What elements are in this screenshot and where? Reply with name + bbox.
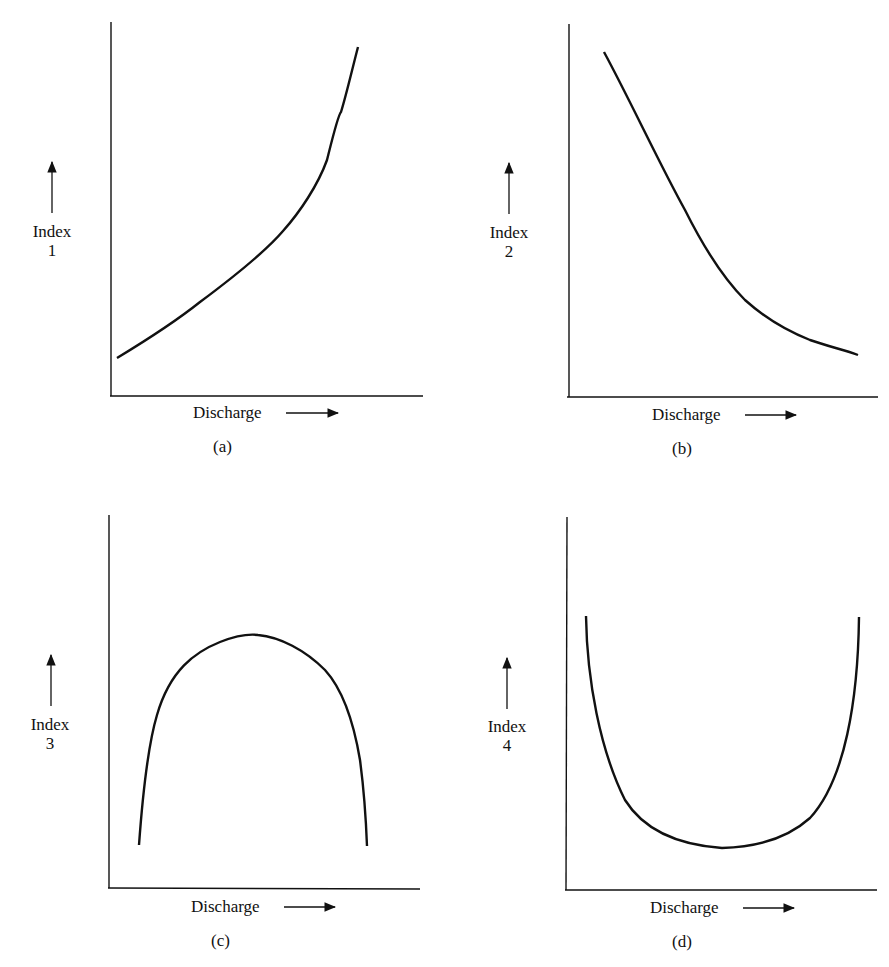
y-label-text: Index <box>479 223 539 242</box>
panel-c <box>51 515 420 907</box>
curve-index-1 <box>117 47 358 358</box>
y-axis-label-a: Index 1 <box>22 222 82 260</box>
y-label-text: Index <box>20 715 80 734</box>
y-axis-label-d: Index 4 <box>477 717 537 755</box>
caption-a: (a) <box>213 437 232 456</box>
caption-b: (b) <box>672 439 692 458</box>
y-label-number: 4 <box>477 736 537 755</box>
curve-index-3 <box>139 635 367 846</box>
curve-index-4 <box>586 616 859 848</box>
y-label-number: 1 <box>22 241 82 260</box>
caption-d: (d) <box>672 932 692 951</box>
x-axis-label-c: Discharge <box>191 897 260 916</box>
y-axis-label-b: Index 2 <box>479 223 539 261</box>
y-label-number: 2 <box>479 242 539 261</box>
y-label-number: 3 <box>20 734 80 753</box>
x-axis-label-a: Discharge <box>193 403 262 422</box>
figure-canvas <box>0 0 889 967</box>
x-axis-label-b: Discharge <box>652 405 721 424</box>
x-axis-label-d: Discharge <box>650 898 719 917</box>
panel-a <box>52 22 423 413</box>
panel-b <box>509 24 878 415</box>
panel-d <box>507 517 877 908</box>
curve-index-2 <box>604 52 858 355</box>
y-label-text: Index <box>22 222 82 241</box>
x-axis <box>108 888 420 889</box>
y-axis-label-c: Index 3 <box>20 715 80 753</box>
y-label-text: Index <box>477 717 537 736</box>
y-axis <box>566 517 567 890</box>
caption-c: (c) <box>211 931 230 950</box>
